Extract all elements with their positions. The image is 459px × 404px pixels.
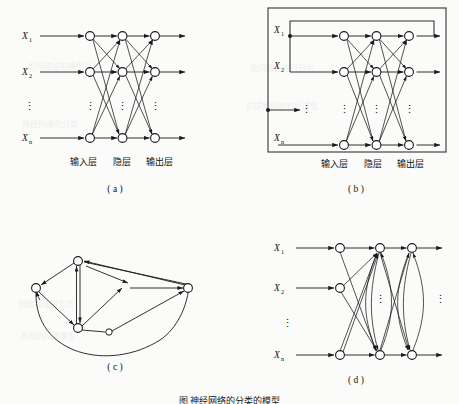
panel-d-input-labels: X 1 X 2 X n <box>273 243 284 362</box>
panel-a-output-arrows <box>160 36 186 138</box>
panel-d-label-xn: X <box>273 350 281 360</box>
panel-a-layer-labels: 输入层 隐层 输出层 <box>70 156 173 167</box>
panel-a-layer-output: 输出层 <box>146 156 173 167</box>
panel-d-caption: ( d ) <box>348 375 364 386</box>
panel-a-dots-col3: ⋮ <box>150 100 161 112</box>
panel-a-label-x2-sub: 2 <box>29 72 32 79</box>
panel-b-dots-col3: ⋮ <box>404 103 415 115</box>
panel-a-dots-input-col: ⋮ <box>24 100 35 112</box>
panel-d-diagram: ⋮ ⋮ ⋮ X 1 X 2 X n ( d ) <box>273 243 446 386</box>
panel-b-label-x1: X <box>273 25 281 35</box>
panel-a-ellipses: ⋮ ⋮ ⋮ ⋮ <box>24 100 161 112</box>
panel-a-cross-links-1 <box>92 39 120 135</box>
panel-b-input-labels: X 1 X 2 X n <box>273 25 284 145</box>
panel-b-dots-col1: ⋮ <box>339 103 350 115</box>
panel-c-edges <box>36 261 186 332</box>
panel-b-cross-links-2 <box>379 39 407 142</box>
panel-c-caption: ( c ) <box>107 362 122 373</box>
panel-b-layer-input: 输入层 <box>321 158 348 169</box>
panel-d-label-x2: X <box>273 283 281 293</box>
figure-caption: 图 神经网络的分类的模型 <box>0 394 459 404</box>
panel-a-label-xn-sub: n <box>29 138 32 145</box>
panel-b-label-x2: X <box>273 61 281 71</box>
panel-a-label-x1: X <box>21 31 29 41</box>
panel-c-node-top <box>74 257 83 266</box>
panel-a-label-x1-sub: 1 <box>29 36 32 43</box>
panel-b-feedback-junction-dot <box>266 108 270 112</box>
panel-d-label-x2-sub: 2 <box>281 288 284 295</box>
panel-d-input-arrows <box>296 248 334 355</box>
panel-a-layer-hidden: 隐层 <box>113 156 131 167</box>
panel-b-caption: ( b ) <box>348 184 364 195</box>
panel-b-dots-input-col: ⋮ <box>301 103 312 115</box>
panel-b-label-xn: X <box>273 133 281 143</box>
panel-d-label-x1: X <box>273 243 281 253</box>
panel-d-dots-input-col: ⋮ <box>282 317 293 329</box>
panel-d-dots-col3: ⋮ <box>435 293 446 305</box>
panel-d-label-x1-sub: 1 <box>281 248 284 255</box>
figure-page: 的网络结构模型可以 神经网络的分类 按网络结构可分为 前馈型网络和反馈型 网络的… <box>0 0 459 404</box>
panel-b-label-x2-sub: 2 <box>281 66 284 73</box>
panel-a-input-labels: X 1 X 2 X n <box>21 31 32 145</box>
panel-c-node-right <box>184 284 193 293</box>
panel-a-layer-input: 输入层 <box>70 156 97 167</box>
panel-a-caption: ( a ) <box>107 184 122 195</box>
panel-b-layer-output: 输出层 <box>397 158 424 169</box>
panel-b-output-arrows <box>417 36 441 145</box>
panel-d-label-xn-sub: n <box>281 355 284 362</box>
panel-a-label-xn: X <box>21 133 29 143</box>
panel-c-node-bottom <box>74 324 83 333</box>
panel-a-diagram: ⋮ ⋮ ⋮ ⋮ X 1 X 2 X n 输入层 隐层 输出层 ( a ) <box>21 31 185 195</box>
panel-a-cross-links-2 <box>125 39 153 135</box>
panel-a-label-x2: X <box>21 67 29 77</box>
panel-c-node-mid <box>106 329 112 335</box>
figure-canvas: ⋮ ⋮ ⋮ ⋮ X 1 X 2 X n 输入层 隐层 输出层 ( a ) <box>0 0 459 404</box>
panel-a-dots-col2: ⋮ <box>117 100 128 112</box>
panel-a-input-arrows <box>40 36 84 138</box>
panel-b-layer-labels: 输入层 隐层 输出层 <box>321 158 424 169</box>
panel-c-node-left <box>32 284 41 293</box>
panel-b-label-xn-sub: n <box>281 138 284 145</box>
panel-c-diagram: ( c ) <box>32 257 193 373</box>
panel-b-layer-hidden: 隐层 <box>364 158 382 169</box>
panel-b-label-x1-sub: 1 <box>281 30 284 37</box>
panel-d-lateral-links-output <box>398 253 424 350</box>
panel-b-input-arrows <box>278 36 338 145</box>
panel-b-cross-links-1 <box>346 39 374 142</box>
panel-a-dots-col1: ⋮ <box>85 100 96 112</box>
panel-b-diagram: ⋮ ⋮ ⋮ ⋮ X 1 X 2 X n 输入层 隐层 输出层 ( b ) <box>266 8 446 195</box>
panel-d-dots-col2: ⋮ <box>375 293 386 305</box>
panel-a-horizontal-links <box>95 36 150 138</box>
panel-b-dots-col2: ⋮ <box>371 103 382 115</box>
